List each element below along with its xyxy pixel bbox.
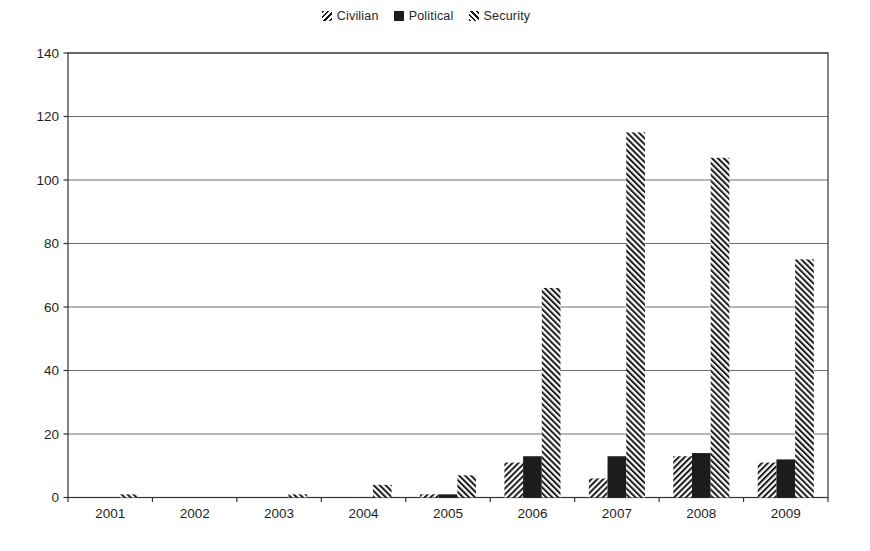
bar-political-2005 — [439, 494, 458, 497]
chart-page: Civilian Political Security 020406080100… — [0, 0, 870, 551]
bar-civilian-2005 — [420, 494, 439, 497]
bar-security-2008 — [711, 158, 730, 498]
bar-civilian-2008 — [673, 456, 692, 497]
x-tick-label: 2008 — [686, 506, 716, 521]
y-tick-label: 40 — [44, 363, 59, 378]
bar-security-2007 — [626, 132, 645, 497]
bar-civilian-2006 — [504, 463, 523, 498]
y-tick-label: 20 — [44, 427, 59, 442]
bar-security-2009 — [795, 259, 814, 497]
x-tick-label: 2009 — [771, 506, 801, 521]
x-tick-label: 2004 — [349, 506, 380, 521]
x-tick-label: 2005 — [433, 506, 463, 521]
bar-political-2008 — [692, 453, 711, 497]
y-tick-label: 60 — [44, 300, 59, 315]
bar-security-2006 — [542, 288, 561, 498]
bar-security-2004 — [373, 485, 392, 498]
bar-political-2009 — [776, 459, 795, 497]
bar-chart: 0204060801001201402001200220032004200520… — [0, 0, 870, 551]
bar-security-2003 — [288, 494, 307, 497]
y-tick-label: 120 — [36, 109, 59, 124]
x-tick-label: 2007 — [602, 506, 632, 521]
x-tick-label: 2002 — [180, 506, 210, 521]
bar-political-2006 — [523, 456, 542, 497]
y-tick-label: 0 — [51, 490, 59, 505]
bar-political-2007 — [608, 456, 627, 497]
bar-civilian-2007 — [589, 478, 608, 497]
x-tick-label: 2001 — [95, 506, 125, 521]
plot-area: 0204060801001201402001200220032004200520… — [36, 46, 828, 521]
y-tick-label: 100 — [36, 173, 59, 188]
bar-security-2001 — [120, 494, 139, 497]
y-tick-label: 140 — [36, 46, 59, 61]
bar-security-2005 — [457, 475, 476, 497]
y-tick-label: 80 — [44, 236, 59, 251]
x-tick-label: 2003 — [264, 506, 294, 521]
x-tick-label: 2006 — [517, 506, 547, 521]
bar-civilian-2009 — [758, 463, 777, 498]
